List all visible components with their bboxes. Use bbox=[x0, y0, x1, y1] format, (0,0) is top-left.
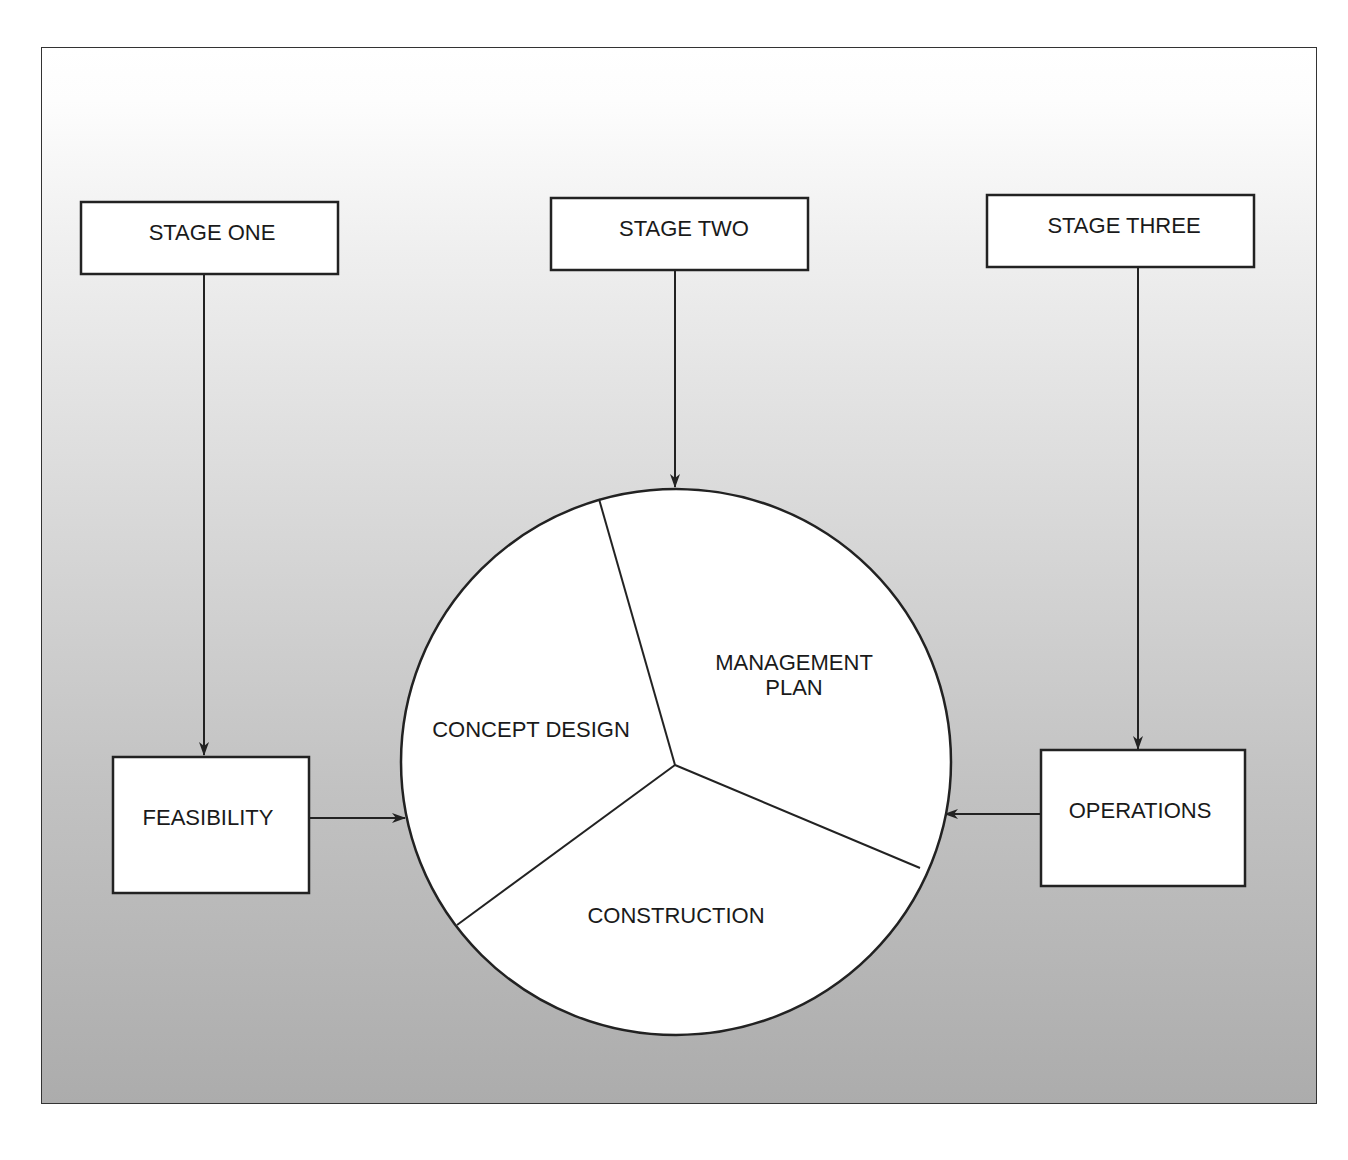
diagram-canvas: STAGE ONE STAGE TWO STAGE THREE FEASIBIL… bbox=[0, 0, 1348, 1160]
stage-one-box: STAGE ONE bbox=[81, 202, 338, 274]
stage-three-label: STAGE THREE bbox=[1047, 213, 1200, 238]
stage-three-box: STAGE THREE bbox=[987, 195, 1254, 267]
segment-concept-design: CONCEPT DESIGN bbox=[432, 717, 630, 742]
segment-management-plan-line2: PLAN bbox=[765, 675, 822, 700]
segment-management-plan-line1: MANAGEMENT bbox=[715, 650, 873, 675]
project-cycle-circle: CONCEPT DESIGN MANAGEMENT PLAN CONSTRUCT… bbox=[401, 489, 951, 1035]
operations-box: OPERATIONS bbox=[1041, 750, 1245, 886]
feasibility-box: FEASIBILITY bbox=[113, 757, 309, 893]
stage-two-label: STAGE TWO bbox=[619, 216, 749, 241]
operations-label: OPERATIONS bbox=[1069, 798, 1212, 823]
stage-one-label: STAGE ONE bbox=[149, 220, 276, 245]
feasibility-label: FEASIBILITY bbox=[143, 805, 274, 830]
stage-two-box: STAGE TWO bbox=[551, 198, 808, 270]
segment-construction: CONSTRUCTION bbox=[587, 903, 764, 928]
